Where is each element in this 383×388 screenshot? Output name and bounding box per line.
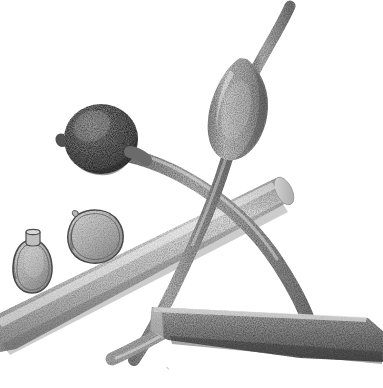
illustration-plate: ⸜: [0, 0, 383, 388]
caption-mark: ⸜: [166, 363, 170, 371]
botanical-illustration-svg: ⸜: [0, 0, 383, 388]
seed-specimen-right: [68, 210, 123, 263]
